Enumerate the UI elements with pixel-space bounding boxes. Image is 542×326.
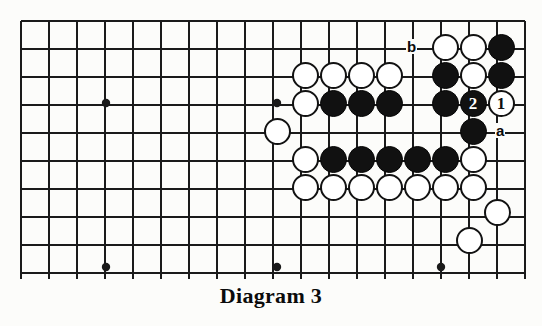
go-stone-black [348, 146, 375, 173]
go-stone-white [292, 174, 319, 201]
go-stone-white [264, 118, 291, 145]
go-stone-white [292, 90, 319, 117]
go-stone-black [460, 118, 487, 145]
figure-caption: Diagram 3 [0, 283, 542, 309]
go-stone-white [460, 174, 487, 201]
go-stone-white [348, 62, 375, 89]
go-stone-black [488, 34, 515, 61]
go-stone-black [488, 62, 515, 89]
go-stone-white [460, 34, 487, 61]
go-stone-move-number: 1 [490, 92, 513, 115]
go-stone-black [320, 146, 347, 173]
go-stone-white [348, 174, 375, 201]
go-stone-white [460, 62, 487, 89]
go-stone-white-move-1: 1 [488, 90, 515, 117]
go-stone-white [456, 227, 483, 254]
go-stone-white [460, 146, 487, 173]
go-diagram-figure: 21 ba Diagram 3 [0, 0, 542, 326]
go-stone-black [348, 90, 375, 117]
go-stone-white [320, 174, 347, 201]
go-stone-black [404, 146, 431, 173]
go-stone-black [320, 90, 347, 117]
go-stone-black [432, 90, 459, 117]
go-stone-black [376, 146, 403, 173]
go-stone-black-move-2: 2 [460, 90, 487, 117]
go-stone-white [376, 62, 403, 89]
go-point-marker-a: a [495, 123, 505, 138]
go-stone-black [432, 62, 459, 89]
go-stone-white [376, 174, 403, 201]
go-stone-white [432, 174, 459, 201]
go-point-marker-b: b [406, 39, 417, 54]
go-stone-white [320, 62, 347, 89]
go-stone-move-number: 2 [461, 91, 486, 116]
go-stone-white [484, 199, 511, 226]
go-stone-black [432, 146, 459, 173]
go-stone-white [292, 146, 319, 173]
go-stone-white [404, 174, 431, 201]
go-stone-black [376, 90, 403, 117]
go-stone-white [432, 34, 459, 61]
go-stone-white [292, 62, 319, 89]
